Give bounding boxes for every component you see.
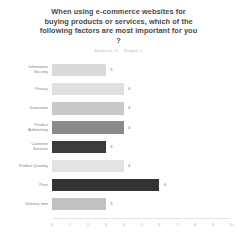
- bar-row: Delivery time3: [6, 195, 231, 214]
- bar[interactable]: [52, 179, 159, 191]
- x-axis-tick: 5: [140, 223, 142, 227]
- bar-value-label: 3: [110, 145, 112, 149]
- x-axis-tick: 8: [194, 223, 196, 227]
- category-label: Price: [6, 183, 52, 188]
- bar-value-label: 4: [128, 126, 130, 130]
- x-axis: 012345678910: [52, 218, 231, 233]
- category-label: Delivery time: [6, 202, 52, 207]
- bar-row: Price6: [6, 176, 231, 195]
- bar-track: 4: [52, 80, 231, 99]
- bar-row: Product Quantity4: [6, 156, 231, 175]
- bar-row: Product Authenticity4: [6, 118, 231, 137]
- x-axis-tick: 1: [69, 223, 71, 227]
- bar[interactable]: [52, 160, 124, 172]
- bar-value-label: 4: [128, 164, 130, 168]
- x-axis-tick: 3: [105, 223, 107, 227]
- bar-track: 3: [52, 137, 231, 156]
- bar[interactable]: [52, 141, 106, 153]
- bar-track: 6: [52, 176, 231, 195]
- chart-header: When using e-commerce websites for buyin…: [6, 7, 231, 53]
- bar-value-label: 6: [164, 183, 166, 187]
- bar[interactable]: [52, 64, 106, 76]
- bar-row: Privacy4: [6, 80, 231, 99]
- x-axis-tick: 4: [123, 223, 125, 227]
- category-label: Product Quantity: [6, 164, 52, 169]
- x-axis-tick: 2: [87, 223, 89, 227]
- bar-track: 4: [52, 99, 231, 118]
- category-label: Product Authenticity: [6, 123, 52, 132]
- x-axis-tick: 0: [51, 223, 53, 227]
- bar-track: 4: [52, 118, 231, 137]
- x-axis-tick: 6: [158, 223, 160, 227]
- bar-track: 3: [52, 60, 231, 79]
- bar[interactable]: [52, 121, 124, 133]
- survey-bar-chart: When using e-commerce websites for buyin…: [0, 0, 237, 234]
- plot-area: Information Security3Privacy4Guarantee4P…: [6, 60, 231, 218]
- bar-row: Information Security3: [6, 60, 231, 79]
- category-label: Customer Services: [6, 142, 52, 151]
- category-label: Privacy: [6, 87, 52, 92]
- bar-value-label: 3: [110, 68, 112, 72]
- chart-subtitle: Answered: 21 Skipped: 0: [6, 49, 231, 53]
- bar-row: Guarantee4: [6, 99, 231, 118]
- x-axis-tick: 10: [229, 223, 233, 227]
- x-axis-tick: 7: [176, 223, 178, 227]
- bar-track: 4: [52, 156, 231, 175]
- bar-value-label: 4: [128, 87, 130, 91]
- category-label: Guarantee: [6, 106, 52, 111]
- bar-track: 3: [52, 195, 231, 214]
- bar-value-label: 3: [110, 202, 112, 206]
- chart-title: When using e-commerce websites for buyin…: [24, 7, 213, 45]
- bar-row: Customer Services3: [6, 137, 231, 156]
- bar[interactable]: [52, 198, 106, 210]
- bar-value-label: 4: [128, 106, 130, 110]
- bar[interactable]: [52, 83, 124, 95]
- x-axis-tick: 9: [212, 223, 214, 227]
- bar[interactable]: [52, 102, 124, 114]
- category-label: Information Security: [6, 65, 52, 74]
